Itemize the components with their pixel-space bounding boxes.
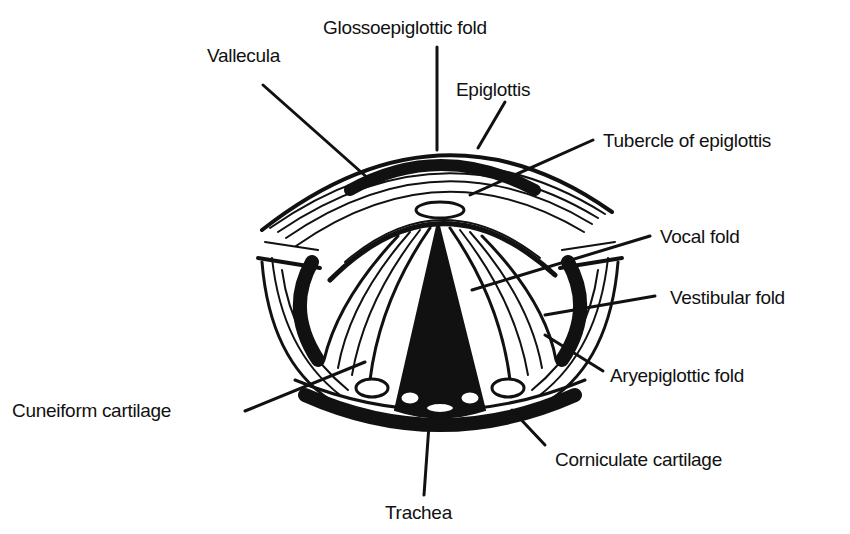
- leader-vocal-fold: [472, 236, 650, 290]
- label-vestibular-fold: Vestibular fold: [670, 288, 785, 307]
- label-cuneiform-cartilage: Cuneiform cartilage: [12, 401, 171, 420]
- leader-trachea: [424, 425, 429, 495]
- label-trachea: Trachea: [385, 503, 452, 522]
- label-vocal-fold: Vocal fold: [660, 227, 739, 246]
- label-epiglottis: Epiglottis: [456, 80, 530, 99]
- leader-vallecula: [263, 85, 370, 180]
- label-vallecula: Vallecula: [207, 46, 280, 65]
- larynx-illustration: [0, 0, 850, 534]
- label-glossoepiglottic-fold: Glossoepiglottic fold: [323, 18, 487, 37]
- label-corniculate-cartilage: Corniculate cartilage: [555, 450, 722, 469]
- leader-epiglottis: [478, 102, 505, 148]
- label-tubercle-of-epiglottis: Tubercle of epiglottis: [603, 131, 771, 150]
- label-aryepiglottic-fold: Aryepiglottic fold: [610, 366, 744, 385]
